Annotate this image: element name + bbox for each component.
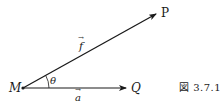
point-q-label: Q bbox=[131, 82, 141, 94]
point-m-label: M bbox=[9, 82, 21, 94]
vector-a-label: → a bbox=[75, 88, 81, 102]
vector-f-label: → f bbox=[78, 36, 84, 52]
figure-caption: 図 3.7.1 bbox=[179, 83, 221, 93]
angle-theta-label: θ bbox=[50, 76, 56, 86]
vector-a-symbol: a bbox=[75, 93, 81, 102]
vector-f-symbol: f bbox=[78, 41, 84, 52]
point-m-dot bbox=[21, 86, 24, 89]
point-p-label: P bbox=[161, 7, 169, 19]
vector-f-line bbox=[23, 14, 156, 88]
angle-arc bbox=[46, 75, 49, 88]
